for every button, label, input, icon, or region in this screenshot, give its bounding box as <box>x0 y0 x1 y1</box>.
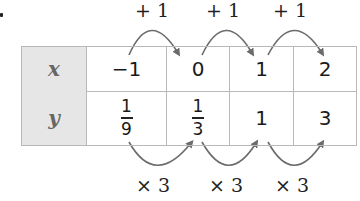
denominator: 3 <box>193 121 204 138</box>
y-cell-4: 3 <box>294 91 356 145</box>
denominator: 9 <box>121 121 132 138</box>
xy-table: x −1 0 1 2 y 1 9 1 3 1 3 <box>21 46 357 146</box>
numerator: 1 <box>193 98 204 115</box>
top-label-2: + 1 <box>206 0 240 21</box>
x-cell-2: 0 <box>167 47 230 91</box>
x-cell-4: 2 <box>294 47 356 91</box>
fraction-one-third: 1 3 <box>192 98 204 138</box>
numerator: 1 <box>121 98 132 115</box>
x-cell-3: 1 <box>230 47 294 91</box>
y-cell-3: 1 <box>230 91 294 145</box>
y-header: y <box>22 91 87 145</box>
x-row: x −1 0 1 2 <box>22 47 356 92</box>
y-cell-2: 1 3 <box>167 91 230 145</box>
y-row: y 1 9 1 3 1 3 <box>22 91 356 145</box>
bottom-label-1: × 3 <box>136 174 170 196</box>
y-cell-1: 1 9 <box>87 91 167 145</box>
x-cell-1: −1 <box>87 47 167 91</box>
bottom-label-3: × 3 <box>275 174 309 196</box>
top-label-1: + 1 <box>135 0 169 21</box>
bottom-label-2: × 3 <box>209 174 243 196</box>
top-label-3: + 1 <box>273 0 307 21</box>
x-header: x <box>22 47 87 91</box>
fraction-one-ninth: 1 9 <box>121 98 133 138</box>
